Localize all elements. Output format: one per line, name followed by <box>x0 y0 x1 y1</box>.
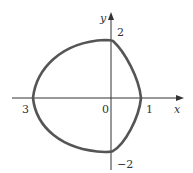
x-axis-label: x <box>174 103 181 116</box>
x-tick-1: 1 <box>146 103 153 116</box>
origin-label: 0 <box>102 103 109 116</box>
chart-canvas: y 2 3 0 1 x −2 <box>0 0 193 173</box>
x-tick-neg3: 3 <box>22 103 29 116</box>
x-axis-arrow-icon <box>176 95 184 101</box>
y-tick-neg2: −2 <box>117 158 133 171</box>
y-tick-2: 2 <box>117 26 124 39</box>
closed-curve <box>33 40 141 152</box>
y-axis-arrow-icon <box>108 12 114 20</box>
y-axis-label: y <box>99 12 107 25</box>
